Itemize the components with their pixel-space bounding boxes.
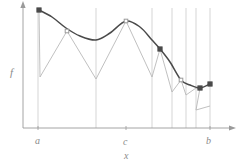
data-point-marker (158, 47, 162, 51)
zigzag-segment (39, 10, 96, 79)
figure-container: f a c b x (0, 0, 241, 165)
data-point-marker (124, 19, 128, 23)
x-axis-arrow-icon (229, 125, 236, 130)
data-point-marker (37, 8, 41, 12)
y-axis-label: f (10, 67, 13, 78)
zigzag-segment (186, 88, 210, 110)
x-tick-label-a: a (35, 136, 40, 146)
data-point-marker (65, 29, 69, 33)
data-point-marker (208, 82, 212, 86)
x-tick-label-b: b (206, 136, 211, 146)
data-point-marker (179, 78, 183, 82)
zigzag-series (39, 10, 210, 110)
data-point-marker (198, 86, 202, 90)
x-tick-label-c: c (123, 137, 127, 147)
y-axis-arrow-icon (20, 1, 25, 8)
x-axis-label: x (124, 151, 128, 161)
zigzag-segment (152, 49, 172, 92)
